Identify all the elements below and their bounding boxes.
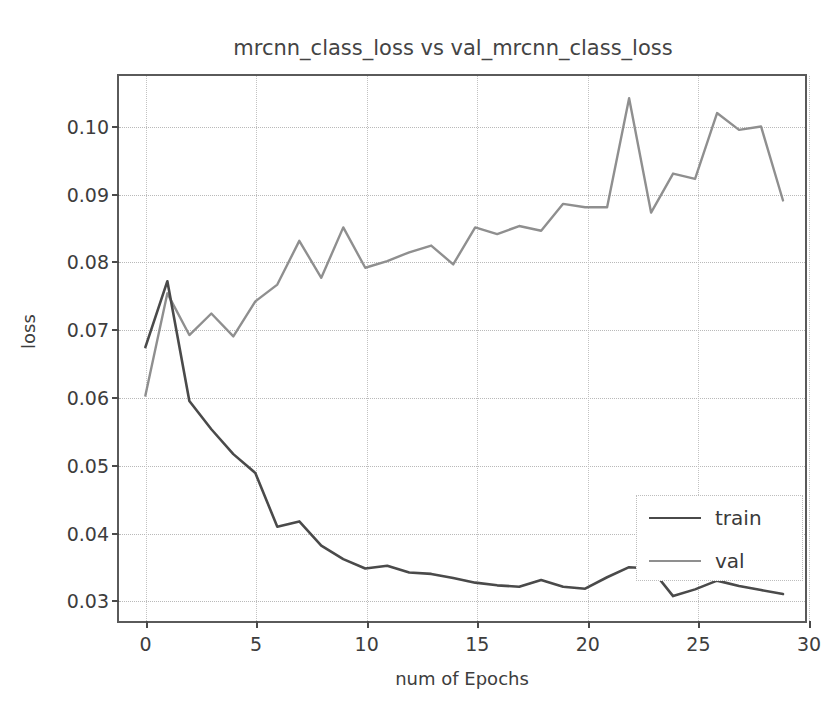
line-series-val	[145, 98, 783, 395]
legend-swatch-train	[649, 517, 701, 519]
y-tick-label: 0.06	[67, 387, 109, 409]
y-tick-mark	[112, 261, 119, 263]
y-tick-mark	[112, 465, 119, 467]
y-tick-mark	[112, 194, 119, 196]
scan-artifact-strip	[0, 692, 829, 708]
x-axis-label: num of Epochs	[117, 668, 807, 689]
y-tick-mark	[112, 533, 119, 535]
x-tick-label: 25	[686, 633, 710, 655]
y-tick-label: 0.08	[67, 251, 109, 273]
x-tick-mark	[698, 621, 700, 628]
x-tick-mark	[367, 621, 369, 628]
y-tick-mark	[112, 126, 119, 128]
legend-label: val	[715, 549, 745, 573]
legend-label: train	[715, 506, 762, 530]
y-tick-label: 0.07	[67, 319, 109, 341]
y-tick-label: 0.05	[67, 455, 109, 477]
legend-swatch-val	[649, 560, 701, 562]
y-tick-label: 0.10	[67, 116, 109, 138]
x-tick-mark	[146, 621, 148, 628]
x-tick-label: 30	[797, 633, 821, 655]
x-tick-label: 0	[139, 633, 151, 655]
y-axis-label: loss	[18, 314, 39, 349]
y-tick-mark	[112, 600, 119, 602]
x-tick-mark	[809, 621, 811, 628]
y-tick-label: 0.09	[67, 184, 109, 206]
y-tick-mark	[112, 397, 119, 399]
legend-item-train[interactable]: train	[637, 496, 802, 539]
y-tick-mark	[112, 329, 119, 331]
plot-area: 0.030.040.050.060.070.080.090.10 0510152…	[117, 74, 807, 623]
page-title: mrcnn_class_loss vs val_mrcnn_class_loss	[117, 36, 789, 60]
legend-item-val[interactable]: val	[637, 539, 802, 582]
y-tick-label: 0.03	[67, 590, 109, 612]
x-tick-label: 15	[465, 633, 489, 655]
figure-canvas: mrcnn_class_loss vs val_mrcnn_class_loss…	[0, 0, 829, 708]
gridline-vertical	[809, 76, 810, 621]
x-tick-mark	[256, 621, 258, 628]
x-tick-mark	[588, 621, 590, 628]
y-tick-label: 0.04	[67, 523, 109, 545]
legend: trainval	[636, 495, 803, 581]
x-tick-label: 5	[250, 633, 262, 655]
x-tick-label: 20	[576, 633, 600, 655]
x-tick-label: 10	[355, 633, 379, 655]
x-tick-mark	[477, 621, 479, 628]
